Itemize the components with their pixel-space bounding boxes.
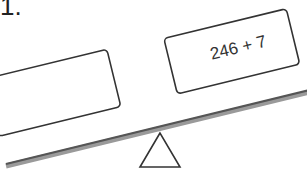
left-pan-box[interactable]: [0, 49, 121, 136]
balance-diagram: 246 + 7: [0, 0, 307, 183]
fulcrum-triangle: [140, 133, 180, 167]
right-pan-box: 246 + 7: [164, 9, 300, 94]
